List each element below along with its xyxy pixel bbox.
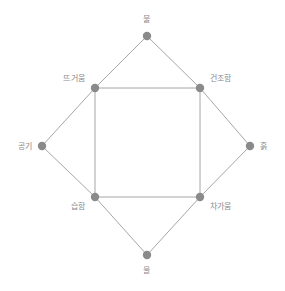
node-label-cold: 차가움 xyxy=(210,203,232,211)
node-label-hot: 뜨거움 xyxy=(63,75,85,83)
node-fire[interactable] xyxy=(143,32,151,40)
edge-wet-water xyxy=(95,197,147,255)
edge-hot-air xyxy=(42,88,95,146)
node-label-water: 물 xyxy=(143,267,150,275)
four-elements-diagram: 불공기흙물뜨거움건조함습함차가움 xyxy=(0,0,285,291)
edge-water-cold xyxy=(147,197,200,255)
node-air[interactable] xyxy=(38,142,46,150)
node-label-fire: 불 xyxy=(143,16,150,24)
edge-earth-dry xyxy=(200,88,250,146)
node-label-air: 공기 xyxy=(18,143,32,151)
node-cold[interactable] xyxy=(196,193,204,201)
node-hot[interactable] xyxy=(91,84,99,92)
node-layer xyxy=(38,32,254,259)
edge-cold-earth xyxy=(200,146,250,197)
node-water[interactable] xyxy=(143,251,151,259)
edge-fire-hot xyxy=(95,36,147,88)
edge-air-wet xyxy=(42,146,95,197)
diagram-canvas xyxy=(0,0,285,291)
node-earth[interactable] xyxy=(246,142,254,150)
node-label-earth: 흙 xyxy=(260,143,267,151)
node-label-wet: 습함 xyxy=(71,203,85,211)
node-wet[interactable] xyxy=(91,193,99,201)
node-dry[interactable] xyxy=(196,84,204,92)
edge-dry-fire xyxy=(147,36,200,88)
edge-layer xyxy=(42,36,250,255)
node-label-dry: 건조함 xyxy=(210,75,232,83)
